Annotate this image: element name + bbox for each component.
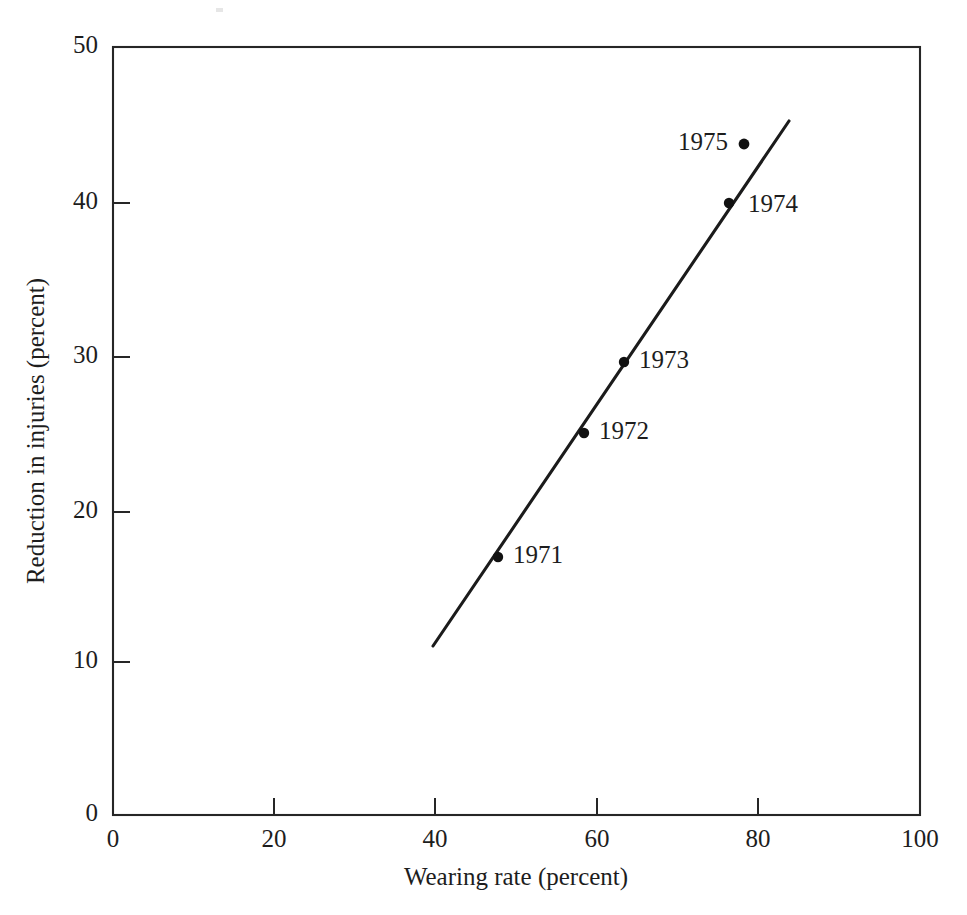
chart-figure: 50 40 30 20 10 0 0 20 40 60 80 100 Weari…	[0, 0, 967, 915]
data-point-labels: 1971 1972 1973 1974 1975	[513, 128, 799, 568]
x-axis-title: Wearing rate (percent)	[404, 863, 628, 891]
x-tick-label-60: 60	[585, 825, 610, 852]
data-point-1973[interactable]	[619, 357, 629, 367]
scan-artifact-speck	[216, 8, 223, 12]
y-tick-label-20: 20	[73, 496, 98, 523]
scatter-chart: 50 40 30 20 10 0 0 20 40 60 80 100 Weari…	[0, 0, 967, 915]
data-point-1972[interactable]	[579, 428, 589, 438]
x-axis-ticks	[274, 798, 758, 815]
y-tick-label-10: 10	[73, 646, 98, 673]
data-label-1975: 1975	[678, 128, 728, 155]
data-point-1975[interactable]	[739, 139, 750, 150]
axis-box	[113, 47, 920, 815]
trend-line	[433, 121, 789, 646]
caption-ghost-text	[88, 893, 608, 911]
data-point-1971[interactable]	[493, 552, 503, 562]
y-tick-label-50: 50	[73, 31, 98, 58]
x-tick-label-80: 80	[746, 825, 771, 852]
plot-frame	[113, 47, 920, 815]
data-label-1974: 1974	[748, 190, 799, 217]
data-label-1971: 1971	[513, 541, 563, 568]
y-tick-label-0: 0	[86, 799, 99, 826]
x-tick-label-40: 40	[423, 825, 448, 852]
y-axis-ticks	[113, 203, 130, 662]
data-point-1974[interactable]	[724, 198, 734, 208]
x-tick-label-20: 20	[262, 825, 287, 852]
y-tick-label-40: 40	[73, 187, 98, 214]
data-label-1972: 1972	[599, 417, 649, 444]
x-tick-label-0: 0	[107, 825, 120, 852]
y-axis-tick-labels: 50 40 30 20 10 0	[73, 31, 98, 826]
y-axis-title: Reduction in injuries (percent)	[22, 278, 50, 584]
x-tick-label-100: 100	[901, 825, 939, 852]
x-axis-tick-labels: 0 20 40 60 80 100	[107, 825, 939, 852]
data-label-1973: 1973	[639, 346, 689, 373]
y-tick-label-30: 30	[73, 341, 98, 368]
